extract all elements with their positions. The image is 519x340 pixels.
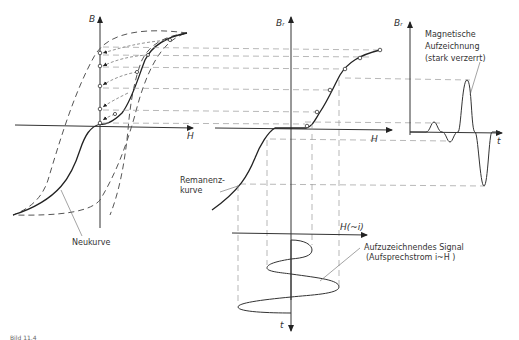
br-axis-label: Bᵣ bbox=[276, 18, 285, 28]
remanenz-label-line2: kurve bbox=[180, 186, 202, 196]
hysteresis-panel bbox=[13, 17, 193, 236]
recording-label-line2: Aufzeichnung bbox=[425, 42, 479, 52]
remanenz-label-line1: Remanenz- bbox=[180, 176, 225, 186]
recording-label-line1: Magnetische bbox=[425, 30, 476, 40]
t-axis-label: t bbox=[280, 320, 284, 330]
h-axis-label-left: H bbox=[187, 131, 194, 141]
h-i-axis-label: H(~i) bbox=[340, 222, 364, 232]
recording-label-line3: (stark verzerrt) bbox=[425, 54, 486, 64]
br-axis-label-right: Bᵣ bbox=[394, 18, 403, 28]
t-axis-label-right: t bbox=[497, 136, 501, 146]
h-axis-left bbox=[15, 125, 193, 128]
signal-wave bbox=[238, 240, 339, 313]
h-i-axis bbox=[232, 233, 367, 235]
projection-lines bbox=[103, 47, 485, 186]
signal-label-line2: (Aufsprechstrom i~H ) bbox=[366, 253, 455, 263]
figure-caption: Bild 11.4 bbox=[10, 333, 37, 340]
signal-panel bbox=[232, 233, 367, 331]
remanence-panel bbox=[212, 17, 392, 305]
h-axis-label-mid: H bbox=[371, 134, 378, 144]
neukurve-label: Neukurve bbox=[72, 238, 110, 248]
b-axis-label: B bbox=[89, 14, 95, 24]
signal-label-line1: Aufzuzeichnendes Signal bbox=[364, 243, 464, 253]
